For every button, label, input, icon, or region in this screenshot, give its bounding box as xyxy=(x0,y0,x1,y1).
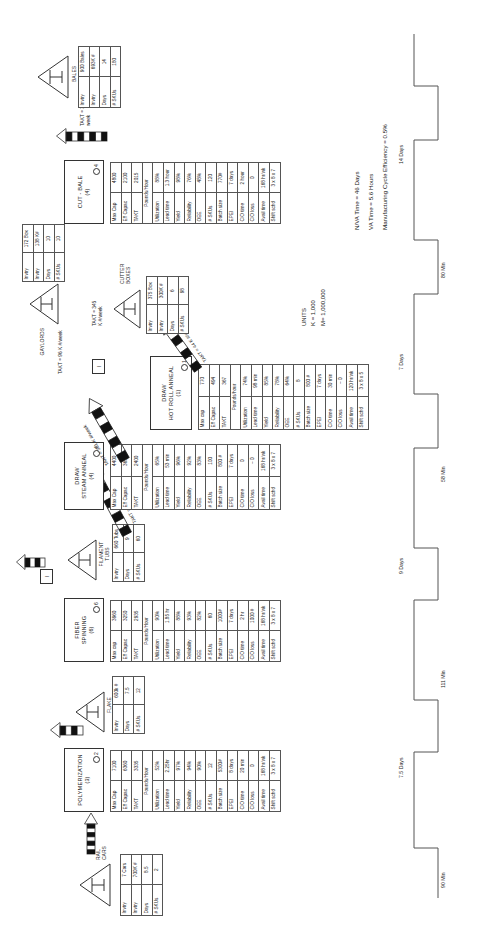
table-row: EPEI7 days xyxy=(227,445,238,510)
process-table-fiber-spinning: Max cap3960Eff Capac3250TAKT2935Pounds/H… xyxy=(110,600,281,662)
table-row: Yield97% xyxy=(174,751,185,812)
table-cell-value: 88% xyxy=(174,601,185,632)
table-row: Avail time168 hr/wk xyxy=(259,163,270,224)
table-row: Lead time2.25hr xyxy=(163,751,174,812)
process-box-fiber-spinning[interactable]: FIBER SPINNING (6) 6 xyxy=(64,598,104,662)
table-row: C/O time2 hr xyxy=(238,601,249,662)
table-cell-span: Pounds/Hour xyxy=(142,445,153,510)
table-cell-key: Yield xyxy=(174,193,185,224)
table-cell-key: C/O time xyxy=(238,193,249,224)
table-cell-key: Days xyxy=(44,253,55,282)
table-cell-value: 3 x 8 x 7 xyxy=(269,163,280,194)
table-cell-value: 600k # xyxy=(113,677,124,706)
table-cell-key: Batch size xyxy=(304,397,315,430)
table-cell-value: 14 xyxy=(100,47,111,78)
table-row: Invtry700K # xyxy=(131,855,142,916)
table-row: EPEI7 days xyxy=(227,163,238,224)
table-cell-value: 8.5 xyxy=(142,855,153,886)
table-cell-key: Reliability xyxy=(185,477,196,510)
table-cell-value: 94% xyxy=(185,751,196,782)
table-cell-key: Utilization xyxy=(153,631,164,662)
table-cell-value: 20 min xyxy=(238,751,249,782)
table-row: Batch size5300# xyxy=(216,751,227,812)
inventory-table-gaylords: Invtry172 BoxInvtry138 K#Days10# SKUs10 xyxy=(22,224,65,282)
table-cell-key: Max Cap xyxy=(111,193,122,224)
table-row: Max cap770 xyxy=(199,365,210,430)
table-row: # SKUs60 xyxy=(206,601,217,662)
table-row: # SKUs10 xyxy=(54,225,65,282)
table-cell-value: 2100 xyxy=(121,163,132,194)
table-cell-value: 7 days xyxy=(227,163,238,194)
table-cell-key: TAKT xyxy=(132,193,143,224)
table-row: Eff Capac494 xyxy=(209,365,220,430)
table-row: # SKUs100 xyxy=(206,445,217,510)
table-cell-value: 60 xyxy=(206,601,217,632)
table-row: Utilization90% xyxy=(153,601,164,662)
table-cell-key: C/O loss xyxy=(248,631,259,662)
kanban-card-1[interactable]: I xyxy=(40,569,53,584)
table-cell-key: Batch size xyxy=(216,193,227,224)
table-cell-key: Shift schd xyxy=(269,193,280,224)
inventory-table-bales: Invtry900 BalesInvtry693K #Days14# SKUs1… xyxy=(78,46,121,108)
table-row: Reliability76% xyxy=(185,163,196,224)
process-name-cut-bale: CUT - BALE xyxy=(77,176,84,209)
table-cell-key: TAKT xyxy=(132,477,143,510)
table-row: Batch size800 # xyxy=(216,445,227,510)
table-cell-key: OEE xyxy=(283,397,294,430)
process-table-draw-hot-roll-anneal: Max cap770Eff Capac494TAKT367Pounds/hour… xyxy=(198,364,369,430)
table-row: Avail time168 hr/wk xyxy=(259,601,270,662)
table-cell-key: Reliability xyxy=(185,781,196,812)
table-row: C/O time20 min xyxy=(238,751,249,812)
table-cell-key: Reliability xyxy=(273,397,284,430)
units-note: UNITS K = 1,000 M= 1,000,000 xyxy=(300,289,328,326)
table-cell-value: 10 xyxy=(54,225,65,254)
table-cell-key: Reliability xyxy=(185,631,196,662)
table-cell-key: Avail time xyxy=(259,631,270,662)
table-cell-key: # SKUs xyxy=(206,781,217,812)
table-cell-value: 800 # xyxy=(304,365,315,398)
table-cell-value: 90% xyxy=(195,751,206,782)
table-cell-key: C/O time xyxy=(238,477,249,510)
table-cell-key: Utilization xyxy=(153,477,164,510)
table-row: Utilization65% xyxy=(153,445,164,510)
table-row: OEE48% xyxy=(195,163,206,224)
table-cell-value: 7 days xyxy=(227,445,238,478)
table-row: # SKUs12 xyxy=(206,751,217,812)
circle-icon xyxy=(93,756,101,764)
table-row: Invtry375 Box xyxy=(147,277,158,334)
timeline-label-4: 58 Min xyxy=(440,466,446,482)
table-cell-value: ~ 0 xyxy=(248,445,259,478)
table-cell-value: 1.85 hr xyxy=(163,601,174,632)
table-row: Max Cap4800 xyxy=(111,163,122,224)
table-cell-value: 12 xyxy=(134,677,145,706)
table-cell-key: Lead time xyxy=(163,781,174,812)
timeline-label-3: 9 Days xyxy=(398,558,404,574)
rotated-canvas: RAIL CARS Invtry7 CarsInvtry700K #Days8.… xyxy=(0,0,491,930)
table-cell-key: Lead time xyxy=(163,477,174,510)
table-row: OEE82% xyxy=(195,601,206,662)
table-row: Avail time168 hr/wk xyxy=(259,445,270,510)
table-cell-value: 78% xyxy=(273,365,284,398)
table-cell-value: 693K # xyxy=(89,47,100,78)
table-cell-key: Eff Capac xyxy=(121,477,132,510)
summary-nva-time: N/VA Time = 46 Days xyxy=(352,171,362,230)
table-cell-key: Utilization xyxy=(153,193,164,224)
table-cell-value: 8 days xyxy=(227,751,238,782)
table-cell-key: Invtry xyxy=(79,77,90,108)
process-box-cut-bale[interactable]: CUT - BALE (4) 4 xyxy=(64,160,104,224)
inventory-triangle-gaylords: GAYLORDS xyxy=(28,282,60,326)
table-cell-span: Pounds/hour xyxy=(230,365,241,430)
table-row: # SKUs60 xyxy=(134,525,145,582)
table-cell-key: OEE xyxy=(195,631,206,662)
table-cell-key: Invtry xyxy=(113,553,124,582)
table-cell-span: Pounds/Hour xyxy=(142,601,153,662)
table-cell-key: Eff Capac xyxy=(121,193,132,224)
table-cell-value: 770# xyxy=(216,163,227,194)
inventory-triangle-cutter-boxes: CUTTER BOXES xyxy=(112,288,142,330)
process-box-draw-hot-roll-anneal[interactable]: DRAW HOT ROLL ANNEAL (1) 1 xyxy=(150,356,192,430)
process-box-polymerization[interactable]: POLYMERIZATION (3) 2 xyxy=(64,748,104,812)
table-row: Invtry900 Bales xyxy=(79,47,90,108)
inventory-label-bales: BALES xyxy=(72,52,78,96)
table-row: Pounds/Hour xyxy=(142,445,153,510)
kanban-card-2[interactable]: I xyxy=(92,359,105,374)
